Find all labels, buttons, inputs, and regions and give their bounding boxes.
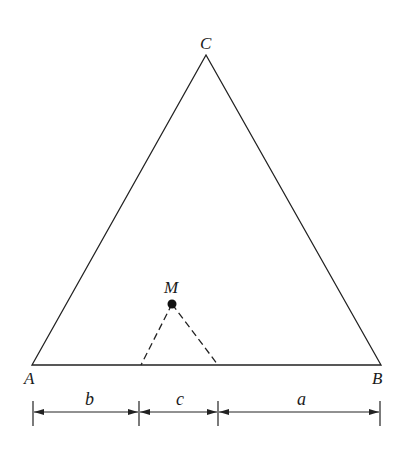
label-a-vertex: A (23, 369, 35, 388)
label-c: C (200, 34, 212, 53)
triangle-diagram: C A B M b c a (0, 0, 413, 466)
diagram-canvas: C A B M b c a (0, 0, 413, 466)
dashed-line-right (172, 304, 218, 365)
dimension-label-a: a (297, 389, 306, 409)
dimension-label-c: c (176, 389, 184, 409)
triangle-abc (32, 55, 381, 365)
dashed-line-left (141, 304, 172, 365)
label-b-vertex: B (372, 369, 383, 388)
dimension-label-b: b (85, 389, 94, 409)
point-m (168, 300, 177, 309)
label-m: M (163, 278, 179, 297)
